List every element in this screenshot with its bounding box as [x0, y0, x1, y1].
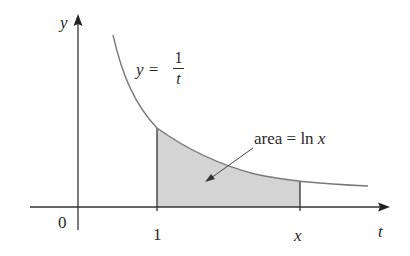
- fraction-denominator: t: [176, 71, 180, 87]
- area-annotation: area = ln x: [254, 130, 325, 147]
- curve-equation-fraction: 1 t: [173, 50, 184, 87]
- tick-label-x: x: [294, 227, 302, 244]
- curve-equation-lhs: y =: [136, 61, 159, 78]
- ln-area-diagram: y t 0 1 x y = 1 t area = ln x: [0, 0, 410, 256]
- area-annotation-text: area = ln: [254, 129, 318, 148]
- fraction-bar: [173, 68, 184, 69]
- fraction-numerator: 1: [175, 50, 183, 66]
- curve-y-1-over-t: [113, 35, 368, 186]
- tick-label-1: 1: [153, 226, 162, 243]
- y-axis-label: y: [60, 14, 68, 31]
- origin-label: 0: [58, 214, 67, 231]
- area-annotation-var: x: [318, 129, 326, 148]
- t-axis-label: t: [378, 223, 383, 240]
